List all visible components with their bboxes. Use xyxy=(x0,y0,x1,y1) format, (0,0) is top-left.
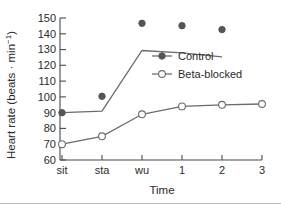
legend-label-control: Control xyxy=(178,50,213,62)
x-tick-label-3: 3 xyxy=(259,164,265,176)
y-tick-label-110: 110 xyxy=(38,75,56,87)
y-axis-ticks xyxy=(60,18,66,160)
data-point-control-1 xyxy=(179,23,185,29)
y-axis-title: Heart rate (beats · min−1) xyxy=(4,31,17,159)
chart-legend: Control Beta-blocked xyxy=(152,50,242,80)
y-tick-label-120: 120 xyxy=(38,59,56,71)
x-tick-label-sta: sta xyxy=(95,164,111,176)
x-axis-title: Time xyxy=(149,184,174,196)
data-point-beta-blocked-sta xyxy=(99,133,106,140)
heart-rate-line-chart: Heart rate (beats · min−1) 60 70 80 90 1… xyxy=(0,0,281,209)
data-point-control-2 xyxy=(219,26,225,32)
legend-entry-beta-blocked: Beta-blocked xyxy=(152,68,242,80)
x-tick-label-sit: sit xyxy=(57,164,68,176)
data-point-beta-blocked-sit xyxy=(59,141,66,148)
y-axis-title-text: Heart rate (beats · min xyxy=(5,44,17,159)
x-tick-label-2: 2 xyxy=(219,164,225,176)
y-tick-label-150: 150 xyxy=(38,12,56,24)
y-tick-label-70: 70 xyxy=(44,138,56,150)
data-point-control-sta xyxy=(99,93,105,99)
x-tick-label-1: 1 xyxy=(179,164,185,176)
chart-figure: Heart rate (beats · min−1) 60 70 80 90 1… xyxy=(0,0,281,209)
data-point-beta-blocked-3 xyxy=(259,101,266,108)
y-tick-label-100: 100 xyxy=(38,91,56,103)
data-point-beta-blocked-1 xyxy=(179,103,186,110)
x-axis-ticks xyxy=(62,155,262,160)
data-point-beta-blocked-wu xyxy=(139,111,146,118)
y-tick-label-140: 140 xyxy=(38,28,56,40)
y-axis-tick-labels: 60 70 80 90 100 110 120 130 140 150 xyxy=(38,12,56,166)
y-tick-label-90: 90 xyxy=(44,107,56,119)
legend-label-beta-blocked: Beta-blocked xyxy=(178,68,242,80)
data-point-control-wu xyxy=(139,20,145,26)
y-axis-title-close: ) xyxy=(5,31,17,35)
footer-divider xyxy=(0,203,281,204)
series-line-beta-blocked xyxy=(62,104,262,144)
legend-marker-control xyxy=(159,53,165,59)
y-tick-label-80: 80 xyxy=(44,122,56,134)
data-point-control-sit xyxy=(59,110,65,116)
data-point-beta-blocked-2 xyxy=(219,101,226,108)
x-tick-label-wu: wu xyxy=(134,164,149,176)
series-markers-beta-blocked xyxy=(59,101,266,148)
y-tick-label-60: 60 xyxy=(44,154,56,166)
x-axis-tick-labels: sit sta wu 1 2 3 xyxy=(57,164,266,176)
legend-marker-beta-blocked xyxy=(159,71,166,78)
y-tick-label-130: 130 xyxy=(38,43,56,55)
